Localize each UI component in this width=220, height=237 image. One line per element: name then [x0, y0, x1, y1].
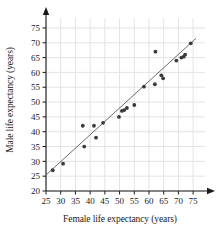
data-point	[101, 121, 105, 125]
data-point	[82, 145, 86, 149]
y-tick-label: 55	[31, 82, 41, 92]
data-point	[154, 50, 158, 54]
grid-lines	[46, 18, 205, 191]
y-tick-label: 75	[31, 23, 41, 33]
x-tick-label: 35	[71, 196, 81, 206]
x-tick-label: 65	[159, 196, 169, 206]
axis-ticks: 2530354045505560657075202530354045505560…	[31, 23, 198, 206]
data-point	[189, 41, 193, 45]
data-point	[174, 59, 178, 63]
y-tick-label: 20	[31, 186, 41, 196]
x-tick-label: 45	[100, 196, 110, 206]
data-point	[94, 136, 98, 140]
data-point	[51, 168, 55, 172]
y-tick-label: 25	[31, 171, 41, 181]
data-point	[125, 106, 129, 110]
data-point	[81, 124, 85, 128]
data-point	[142, 85, 146, 89]
x-tick-label: 75	[189, 196, 199, 206]
x-tick-label: 60	[144, 196, 154, 206]
data-point	[161, 76, 165, 80]
x-tick-label: 40	[86, 196, 96, 206]
y-tick-label: 40	[31, 127, 41, 137]
y-tick-label: 30	[31, 157, 41, 167]
x-tick-label: 30	[56, 196, 66, 206]
y-tick-label: 45	[31, 112, 41, 122]
data-point	[117, 115, 121, 119]
y-tick-label: 35	[31, 142, 41, 152]
x-tick-label: 25	[42, 196, 52, 206]
x-tick-label: 50	[115, 196, 125, 206]
axes	[43, 7, 215, 194]
plot-canvas: 2530354045505560657075202530354045505560…	[0, 0, 220, 237]
y-tick-label: 60	[31, 68, 41, 78]
x-axis-arrow-icon	[207, 188, 215, 194]
x-tick-label: 70	[174, 196, 184, 206]
y-axis-arrow-icon	[43, 7, 49, 15]
y-tick-label: 50	[31, 97, 41, 107]
data-point	[153, 82, 157, 86]
data-point	[183, 53, 187, 57]
data-point	[61, 162, 65, 166]
x-axis-title: Female life expectancy (years)	[20, 214, 220, 224]
scatter-plot-figure: Male life expectancy (years) 25303540455…	[0, 0, 220, 237]
y-tick-label: 65	[31, 53, 41, 63]
data-point	[92, 124, 96, 128]
x-tick-label: 55	[130, 196, 140, 206]
trend-line	[46, 38, 196, 175]
data-point	[132, 103, 136, 107]
y-tick-label: 70	[31, 38, 41, 48]
